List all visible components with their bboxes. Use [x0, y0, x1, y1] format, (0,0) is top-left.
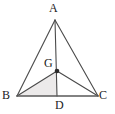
- centroid-point-g: [55, 69, 60, 74]
- vertex-label-d: D: [55, 99, 64, 111]
- geometry-canvas: [0, 0, 115, 114]
- vertex-label-a: A: [49, 2, 58, 14]
- side-ac-line: [55, 20, 98, 96]
- geometry-figure: A B C D G: [0, 0, 115, 114]
- vertex-label-g: G: [44, 57, 53, 69]
- vertex-label-b: B: [2, 89, 10, 101]
- vertex-label-c: C: [99, 89, 107, 101]
- segment-gc-line: [57, 71, 98, 96]
